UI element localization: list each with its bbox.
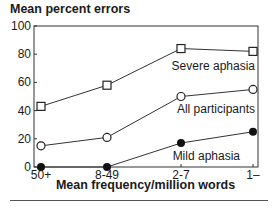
y-tick-label: 40 bbox=[18, 104, 32, 118]
series-labels: Severe aphasiaAll participantsMild aphas… bbox=[172, 59, 256, 163]
series-label: Severe aphasia bbox=[172, 59, 256, 73]
y-tick-label: 80 bbox=[18, 47, 32, 61]
x-axis-label: Mean frequency/million words bbox=[0, 178, 273, 192]
square-marker bbox=[103, 81, 111, 89]
circle-marker bbox=[177, 93, 185, 101]
y-tick-label: 20 bbox=[18, 132, 32, 146]
circle-marker bbox=[37, 142, 45, 150]
plot-frame bbox=[34, 26, 258, 167]
filled-circle-marker bbox=[37, 163, 45, 171]
filled-circle-marker bbox=[103, 163, 111, 171]
square-marker bbox=[249, 47, 257, 55]
y-axis: 020406080100 bbox=[11, 19, 37, 174]
divider bbox=[10, 200, 268, 201]
series-label: All participants bbox=[177, 102, 255, 116]
series-label: Mild aphasia bbox=[173, 149, 241, 163]
y-tick-label: 100 bbox=[11, 19, 31, 33]
y-tick-label: 60 bbox=[18, 75, 32, 89]
circle-marker bbox=[249, 85, 257, 93]
series-severe-aphasia bbox=[37, 45, 257, 111]
circle-marker bbox=[103, 133, 111, 141]
square-marker bbox=[37, 102, 45, 110]
filled-circle-marker bbox=[177, 139, 185, 147]
filled-circle-marker bbox=[249, 128, 257, 136]
series-all-participants bbox=[37, 85, 257, 149]
square-marker bbox=[177, 45, 185, 53]
